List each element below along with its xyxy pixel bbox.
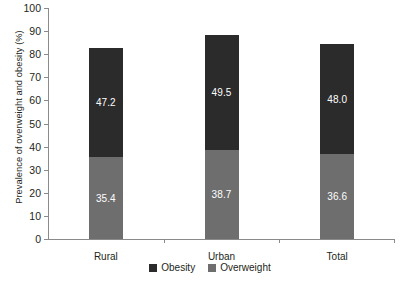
y-axis-tick-label: 50	[29, 118, 41, 130]
y-axis-tick	[44, 216, 48, 217]
bar-segment-obesity: 48.0	[320, 44, 354, 155]
legend-swatch-icon	[208, 264, 216, 272]
bar-segment-obesity: 49.5	[205, 35, 239, 149]
y-axis-tick	[44, 100, 48, 101]
y-axis-tick-label: 30	[29, 164, 41, 176]
bar-value-label: 48.0	[327, 94, 347, 105]
bar-segment-obesity: 47.2	[89, 48, 123, 157]
legend-label: Overweight	[220, 262, 271, 273]
bar-urban: 49.538.7	[205, 35, 239, 239]
y-axis-tick	[44, 8, 48, 9]
y-axis-title: Prevalence of overweight and obesity (%)	[14, 2, 24, 232]
y-axis-tick-label: 40	[29, 141, 41, 153]
y-axis-tick-label: 20	[29, 187, 41, 199]
stacked-bar-chart: Prevalence of overweight and obesity (%)…	[0, 0, 420, 284]
bar-total: 48.036.6	[320, 44, 354, 239]
bar-value-label: 36.6	[327, 191, 347, 202]
y-axis-tick-label: 0	[35, 233, 41, 245]
y-axis-tick-label: 100	[23, 2, 41, 14]
y-axis-tick	[44, 170, 48, 171]
x-axis-tick-label: Urban	[208, 251, 235, 262]
y-axis-tick	[44, 124, 48, 125]
y-axis-tick-label: 80	[29, 48, 41, 60]
y-axis-tick	[44, 147, 48, 148]
y-axis-tick	[44, 54, 48, 55]
bar-segment-overweight: 38.7	[205, 150, 239, 239]
y-axis-tick-label: 70	[29, 71, 41, 83]
bar-value-label: 35.4	[96, 193, 116, 204]
bar-segment-overweight: 36.6	[320, 154, 354, 239]
chart-legend: ObesityOverweight	[0, 262, 420, 273]
y-axis-line	[48, 8, 49, 239]
y-axis-tick	[44, 193, 48, 194]
y-axis-tick	[44, 77, 48, 78]
x-axis-tick-label: Rural	[94, 251, 118, 262]
plot-area: 0102030405060708090100 47.235.449.538.74…	[48, 8, 395, 239]
legend-swatch-icon	[149, 264, 157, 272]
x-axis-tick	[164, 239, 165, 243]
y-axis-tick	[44, 31, 48, 32]
bar-rural: 47.235.4	[89, 48, 123, 239]
legend-item-overweight[interactable]: Overweight	[208, 262, 271, 273]
bar-segment-overweight: 35.4	[89, 157, 123, 239]
y-axis-tick	[44, 239, 48, 240]
legend-item-obesity[interactable]: Obesity	[149, 262, 195, 273]
legend-label: Obesity	[161, 262, 195, 273]
bar-value-label: 47.2	[96, 97, 116, 108]
x-axis-tick	[394, 239, 395, 243]
bar-value-label: 38.7	[212, 189, 232, 200]
bar-value-label: 49.5	[212, 87, 232, 98]
y-axis-tick-label: 60	[29, 94, 41, 106]
x-axis-tick	[279, 239, 280, 243]
x-axis-line	[48, 239, 395, 240]
x-axis-tick-label: Total	[327, 251, 348, 262]
y-axis-tick-label: 10	[29, 210, 41, 222]
y-axis-tick-label: 90	[29, 25, 41, 37]
